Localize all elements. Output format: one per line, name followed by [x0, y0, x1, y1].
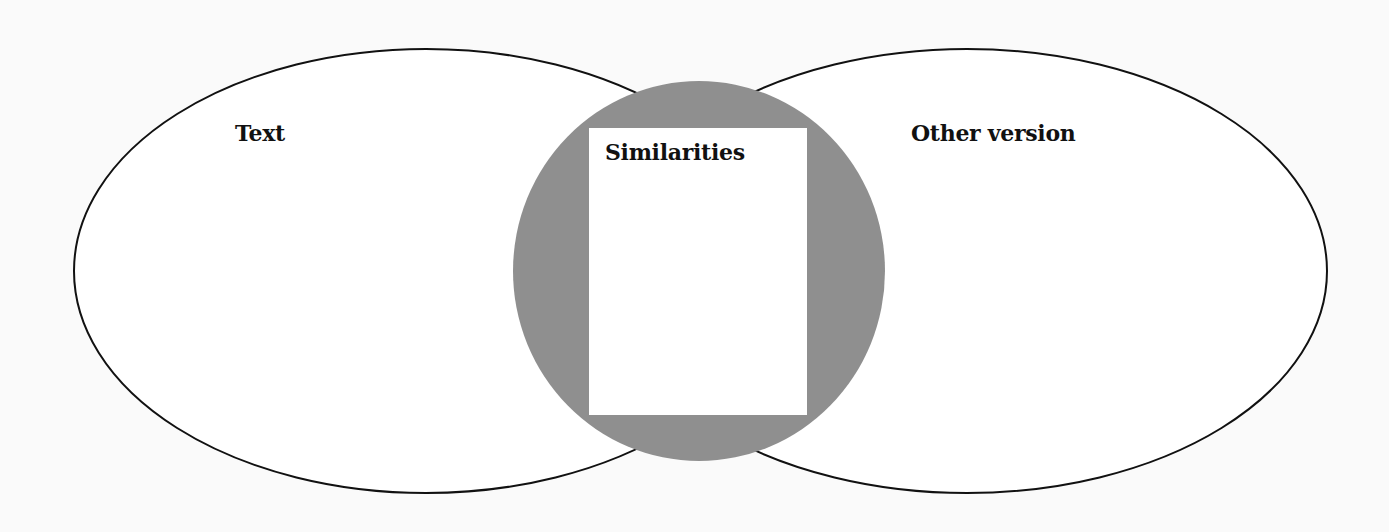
- other-version-writing-area[interactable]: [910, 165, 1290, 445]
- similarities-label: Similarities: [605, 141, 745, 163]
- right-set-label: Other version: [911, 122, 1075, 144]
- similarities-writing-area[interactable]: [600, 175, 795, 405]
- text-writing-area[interactable]: [130, 165, 500, 445]
- left-set-label: Text: [235, 122, 285, 144]
